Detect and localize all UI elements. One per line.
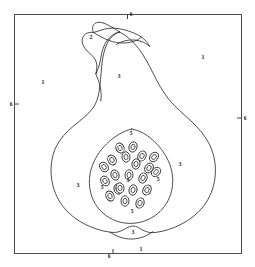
border-label-bottom: 6 [108, 254, 111, 260]
region-label-background-bottom: 1 [140, 246, 143, 252]
region-label-background-left: 1 [42, 79, 45, 85]
seed-kernel-icon [118, 185, 123, 191]
seed-kernel-icon [134, 161, 139, 167]
region-label-flesh-left: 3 [77, 182, 80, 188]
cavity-label-cavity-top: 5 [130, 131, 133, 137]
border-label-right: 6 [244, 116, 247, 122]
region-label-flesh-base: 3 [132, 229, 135, 235]
region-label-background-right: 1 [202, 54, 205, 60]
seed [121, 196, 129, 206]
border-label-top: 6 [130, 12, 133, 18]
cavity-label-cavity-bottom: 5 [131, 209, 134, 215]
seed-kernel-icon [124, 154, 129, 160]
border-label-left: 6 [10, 102, 13, 108]
seed-kernel-icon [123, 198, 127, 203]
region-label-flesh-right: 3 [179, 161, 182, 167]
cavity-label-cavity-center: 5 [127, 178, 130, 184]
figure-root: 11123333 55555 6666 [0, 0, 255, 267]
region-label-stem: 2 [90, 34, 93, 40]
region-label-flesh-neck: 3 [118, 73, 121, 79]
cavity-label-cavity-right: 5 [157, 177, 160, 183]
figure-frame [15, 15, 242, 254]
cavity-label-cavity-left: 5 [101, 185, 104, 191]
fruit-section-drawing [0, 0, 255, 267]
